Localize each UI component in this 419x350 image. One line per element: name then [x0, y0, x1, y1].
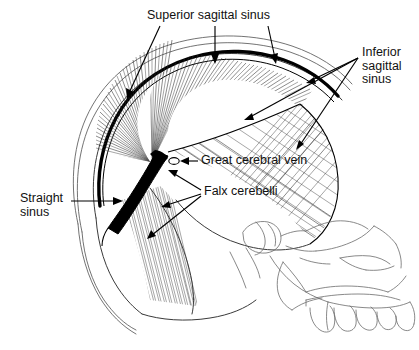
label-superior-sagittal-sinus: Superior sagittal sinus	[147, 8, 270, 22]
label-inferior-sagittal-sinus-line2: sagittal	[362, 59, 402, 73]
label-inferior-sagittal-sinus-line3: sinus	[362, 72, 391, 86]
label-falx-cerebelli: Falx cerebelli	[204, 184, 278, 198]
label-great-cerebral-vein: Great cerebral vein	[201, 153, 307, 167]
anatomical-figure: Superior sagittal sinus Inferior sagitta…	[0, 0, 419, 350]
label-straight-sinus-line1: Straight	[20, 191, 64, 205]
label-inferior-sagittal-sinus-line1: Inferior	[362, 45, 401, 59]
great-cerebral-vein-lumen	[169, 158, 179, 165]
label-straight-sinus-line2: sinus	[20, 205, 49, 219]
skull-sagittal-diagram: Superior sagittal sinus Inferior sagitta…	[0, 0, 419, 350]
